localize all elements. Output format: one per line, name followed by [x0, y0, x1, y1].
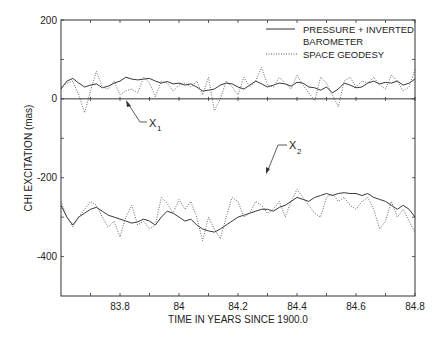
- x1-subscript: 1: [157, 124, 162, 133]
- x-tick-label: 84.8: [405, 301, 425, 312]
- y-tick-label: -200: [37, 172, 57, 183]
- series-line: [61, 193, 415, 232]
- legend: PRESSURE + INVERTED BAROMETER SPACE GEOD…: [266, 24, 414, 60]
- plot-frame: [61, 20, 415, 296]
- y-axis-label: CHI EXCITATION (mas): [23, 105, 34, 212]
- series-line: [61, 190, 415, 241]
- series-line: [61, 77, 415, 93]
- x-tick-label: 83.8: [110, 301, 130, 312]
- legend-label-space-geodesy: SPACE GEODESY: [303, 49, 385, 60]
- x-axis-label: TIME IN YEARS SINCE 1900.0: [168, 314, 308, 325]
- annotation-x2: X 2: [266, 139, 302, 174]
- plot-lines: [61, 67, 415, 241]
- x-tick-label: 84.6: [346, 301, 366, 312]
- x-axis-ticks: 83.88484.284.484.684.8: [91, 20, 426, 312]
- x2-arrow-line: [268, 145, 287, 170]
- y-tick-label: -400: [37, 251, 57, 262]
- series-line: [61, 67, 415, 112]
- x1-label: X: [149, 117, 157, 129]
- x1-arrowhead-icon: [126, 100, 131, 107]
- x2-arrowhead-icon: [266, 167, 270, 174]
- x-tick-label: 84: [173, 301, 185, 312]
- x-tick-label: 84.4: [287, 301, 307, 312]
- chi-excitation-chart: 83.88484.284.484.684.8 2000-200-400 TIME…: [0, 0, 435, 338]
- y-tick-label: 200: [40, 15, 57, 26]
- y-tick-label: 0: [51, 93, 57, 104]
- x2-label: X: [289, 139, 297, 151]
- x-tick-label: 84.2: [228, 301, 248, 312]
- x2-subscript: 2: [297, 147, 302, 156]
- legend-label-pressure: PRESSURE + INVERTED: [303, 24, 414, 35]
- legend-label-barometer: BAROMETER: [303, 36, 363, 47]
- annotation-x1: X 1: [126, 100, 162, 133]
